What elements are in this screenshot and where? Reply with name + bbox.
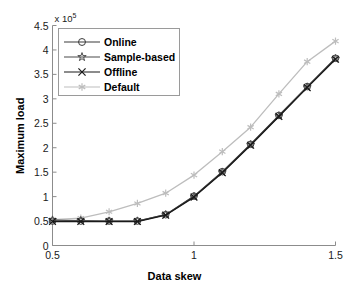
- x-axis-title: Data skew: [0, 270, 349, 282]
- y-tick-label: 2: [43, 142, 49, 154]
- x-tick-label: 0.5: [45, 249, 60, 261]
- chart-legend: OnlineSample-basedOfflineDefault: [58, 28, 180, 96]
- y-axis-title: Maximum load: [14, 97, 26, 173]
- legend-item-default[interactable]: Default: [59, 79, 179, 95]
- y-tick-label: 3: [43, 93, 49, 105]
- legend-label: Default: [104, 81, 140, 93]
- x-marker-icon: [63, 64, 101, 80]
- y-tick-label: 4.5: [34, 20, 49, 32]
- y-axis-multiplier-exponent: 5: [72, 12, 76, 19]
- y-axis-multiplier-base: x 10: [55, 13, 73, 24]
- asterisk-marker-icon: [63, 79, 101, 95]
- y-tick-label: 0.5: [34, 215, 49, 227]
- legend-label: Offline: [104, 66, 137, 78]
- legend-label: Online: [104, 36, 137, 48]
- y-tick-label: 1.5: [34, 166, 49, 178]
- pentagram-marker-icon: [63, 49, 101, 65]
- y-tick-label: 1: [43, 191, 49, 203]
- legend-item-offline[interactable]: Offline: [59, 64, 179, 80]
- legend-item-online[interactable]: Online: [59, 34, 179, 50]
- x-tick-label: 1.5: [328, 249, 343, 261]
- chart-figure: x 105 00.511.522.533.544.5 0.511.5 Maxim…: [0, 0, 349, 293]
- y-tick-label: 4: [43, 44, 49, 56]
- y-tick-label: 3.5: [34, 68, 49, 80]
- legend-label: Sample-based: [104, 51, 175, 63]
- x-tick-label: 1: [191, 249, 197, 261]
- circle-marker-icon: [63, 34, 101, 50]
- legend-item-sample-based[interactable]: Sample-based: [59, 49, 179, 65]
- y-tick-label: 2.5: [34, 117, 49, 129]
- y-axis-multiplier: x 105: [55, 12, 77, 24]
